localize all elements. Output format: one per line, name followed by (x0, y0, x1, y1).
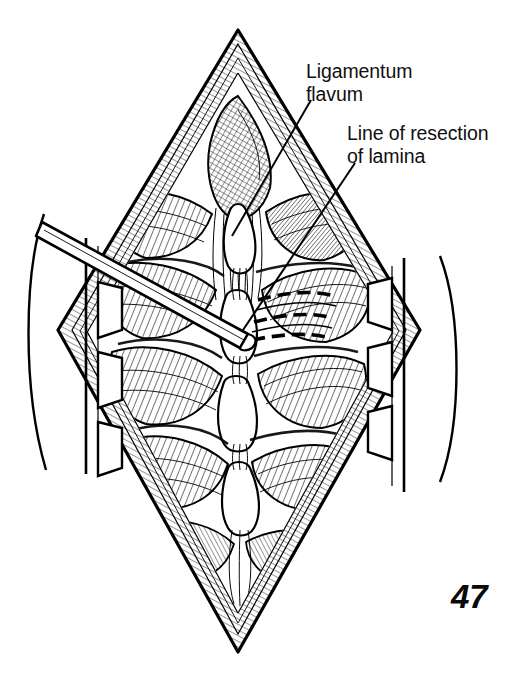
label-ligamentum-flavum: Ligamentum flavum (306, 60, 412, 106)
label-ligamentum-flavum-line2: flavum (306, 83, 363, 105)
self-retaining-retractor-right[interactable] (368, 256, 457, 492)
label-line-of-resection-line2: of lamina (347, 145, 425, 167)
surgical-illustration (0, 0, 515, 687)
figure-number: 47 (451, 578, 488, 616)
retractor-teeth-right (368, 278, 392, 460)
label-line-of-resection: Line of resection of lamina (347, 122, 488, 168)
retractor-teeth-left (98, 282, 122, 476)
label-ligamentum-flavum-line1: Ligamentum (306, 60, 412, 82)
label-line-of-resection-line1: Line of resection (347, 122, 488, 144)
figure-container: Ligamentum flavum Line of resection of l… (0, 0, 515, 687)
